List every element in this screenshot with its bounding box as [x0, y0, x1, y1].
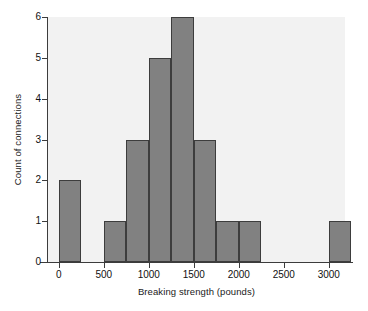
x-axis-tick: [329, 263, 330, 268]
x-axis-tick: [104, 263, 105, 268]
x-axis-tick: [149, 263, 150, 268]
x-axis-tick-label: 500: [84, 269, 124, 281]
x-axis-tick-label: 2000: [219, 269, 259, 281]
y-axis-title: Count of connections: [9, 17, 26, 262]
x-axis-tick: [194, 263, 195, 268]
x-axis-tick: [284, 263, 285, 268]
x-axis-tick: [59, 263, 60, 268]
x-axis-title: Breaking strength (pounds): [48, 286, 345, 297]
histogram-figure: 0123456 050010001500200025003000 Count o…: [0, 0, 368, 311]
x-axis-ticks-and-labels: 050010001500200025003000: [0, 0, 368, 311]
x-axis-tick: [239, 263, 240, 268]
x-axis-tick-label: 1000: [129, 269, 169, 281]
x-axis-tick-label: 2500: [264, 269, 304, 281]
x-axis-tick-label: 0: [39, 269, 79, 281]
x-axis-tick-label: 1500: [174, 269, 214, 281]
x-axis-tick-label: 3000: [309, 269, 349, 281]
